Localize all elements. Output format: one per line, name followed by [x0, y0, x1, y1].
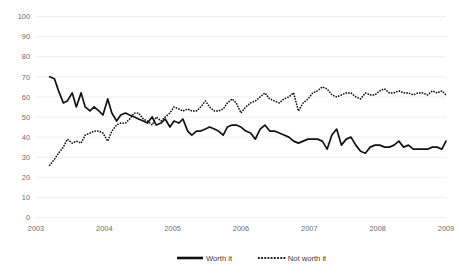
y-tick-label: 20	[22, 173, 30, 182]
x-tick-label: 2007	[301, 224, 317, 233]
line-chart: 0102030405060708090100 20032004200520062…	[0, 0, 459, 275]
y-tick-label: 30	[22, 153, 30, 162]
y-tick-label: 90	[22, 32, 30, 41]
series-line-worth-it	[50, 77, 446, 153]
y-tick-label: 70	[22, 73, 30, 82]
x-axis-tick-labels: 2003200420052006200720082009	[28, 224, 454, 233]
series-group	[50, 77, 446, 165]
gridlines	[36, 17, 446, 218]
y-tick-label: 60	[22, 93, 30, 102]
x-tick-label: 2006	[233, 224, 249, 233]
y-tick-label: 50	[22, 113, 30, 122]
chart-container: 0102030405060708090100 20032004200520062…	[0, 0, 459, 275]
legend-label-worth-it[interactable]: Worth it	[206, 254, 233, 263]
x-tick-label: 2009	[438, 224, 454, 233]
y-tick-label: 40	[22, 133, 30, 142]
x-tick-label: 2008	[369, 224, 385, 233]
y-tick-label: 100	[18, 12, 30, 21]
chart-legend: Worth itNot worth it	[177, 254, 327, 263]
x-tick-label: 2004	[96, 224, 112, 233]
series-line-not-worth-it	[50, 87, 446, 165]
y-tick-label: 80	[22, 52, 30, 61]
y-tick-label: 0	[26, 213, 30, 222]
x-tick-label: 2003	[28, 224, 44, 233]
x-tick-label: 2005	[164, 224, 180, 233]
y-axis-tick-labels: 0102030405060708090100	[18, 12, 30, 222]
y-tick-label: 10	[22, 193, 30, 202]
legend-label-not-worth-it[interactable]: Not worth it	[288, 254, 327, 263]
